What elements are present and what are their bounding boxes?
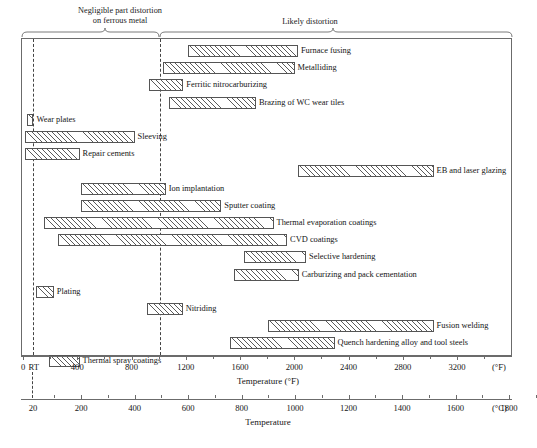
- axis-f-tick-minor: [104, 356, 105, 359]
- axis-f-tick-minor: [159, 356, 160, 359]
- axis-f-ticklabel: 800: [125, 362, 138, 372]
- axis-f-tick-major: [77, 356, 78, 360]
- bar-fusion-welding[interactable]: [268, 320, 433, 332]
- axis-c-title: Temperature: [0, 417, 536, 427]
- axis-c-tick-major: [242, 395, 243, 399]
- axis-c-tick-minor: [375, 395, 376, 398]
- axis-c-tick-major: [349, 395, 350, 399]
- axis-f-tick-minor: [213, 356, 214, 359]
- axis-f-ticklabel: 1600: [231, 362, 248, 372]
- axis-c-ticklabel: 400: [128, 403, 141, 413]
- bar-row: Wear plates: [22, 114, 511, 127]
- axis-f-tick-major: [349, 356, 350, 360]
- bar-row: EB and laser glazing: [22, 165, 511, 178]
- bar-ion-implantation[interactable]: [81, 183, 166, 195]
- axis-f-rt-label: RT: [28, 362, 38, 372]
- axis-c-tick-major: [81, 395, 82, 399]
- bar-selective-hardening[interactable]: [244, 251, 306, 263]
- bar-label: EB and laser glazing: [437, 164, 507, 177]
- bar-row: Fusion welding: [22, 320, 511, 333]
- bar-row: Metalliding: [22, 62, 511, 75]
- axis-f-tick-minor: [50, 356, 51, 359]
- axis-c-ticklabel: 600: [182, 403, 195, 413]
- bar-row: Quench hardening alloy and tool steels: [22, 337, 511, 350]
- bar-nitriding[interactable]: [147, 303, 182, 315]
- axis-c-ticklabel: 200: [75, 403, 88, 413]
- bar-label: Fusion welding: [437, 319, 489, 332]
- axis-f-zero-label: 0: [21, 362, 25, 372]
- bar-sputter-coating[interactable]: [81, 200, 221, 212]
- axis-f-tick-minor: [376, 356, 377, 359]
- axis-f-tick-minor: [267, 356, 268, 359]
- axis-c-ticklabel: 1000: [286, 403, 303, 413]
- bar-label: Metalliding: [298, 61, 337, 74]
- bar-row: Ferritic nitrocarburizing: [22, 79, 511, 92]
- axis-c-tick-major: [456, 395, 457, 399]
- bar-carburizing-and-pack-cementation[interactable]: [234, 269, 299, 281]
- bar-furnace-fusing[interactable]: [188, 45, 298, 57]
- axis-c-tick-minor: [161, 395, 162, 398]
- axis-c-ticklabel: 20: [29, 403, 38, 413]
- bar-row: Sleeving: [22, 131, 511, 144]
- axis-celsius: [21, 399, 512, 400]
- bar-row: Nitriding: [22, 303, 511, 316]
- bar-label: Sleeving: [138, 130, 167, 143]
- axis-c-tick-major: [188, 395, 189, 399]
- bar-label: Nitriding: [186, 302, 217, 315]
- bar-row: Ion implantation: [22, 183, 511, 196]
- axis-c-tick-minor: [268, 395, 269, 398]
- axis-c-tick-minor: [429, 395, 430, 398]
- bar-eb-and-laser-glazing[interactable]: [298, 165, 434, 177]
- bar-label: Thermal evaporation coatings: [277, 216, 377, 229]
- axis-f-tick-minor: [321, 356, 322, 359]
- bar-label: Plating: [57, 285, 81, 298]
- bar-cvd-coatings[interactable]: [58, 234, 287, 246]
- axis-c-tick-minor: [322, 395, 323, 398]
- bar-plating[interactable]: [36, 286, 54, 298]
- bar-label: Quench hardening alloy and tool steels: [338, 336, 468, 349]
- bar-label: Brazing of WC wear tiles: [259, 96, 344, 109]
- axis-f-tick-major: [294, 356, 295, 360]
- axis-f-ticklabel: 2400: [340, 362, 357, 372]
- axis-f-title: Temperature (°F): [0, 376, 536, 386]
- axis-f-tick-major: [457, 356, 458, 360]
- axis-f-tick-minor: [484, 356, 485, 359]
- axis-f-ticklabel: 1200: [177, 362, 194, 372]
- bar-repair-cements[interactable]: [25, 148, 79, 160]
- axis-c-tick-minor: [54, 395, 55, 398]
- axis-f-tick-major: [186, 356, 187, 360]
- axis-f-tick-major: [23, 356, 24, 360]
- bar-row: Selective hardening: [22, 251, 511, 264]
- bar-label: Selective hardening: [309, 250, 375, 263]
- bar-row: Thermal evaporation coatings: [22, 217, 511, 230]
- plot-area: Furnace fusingMetallidingFerritic nitroc…: [21, 38, 512, 356]
- bar-row: Furnace fusing: [22, 45, 511, 58]
- bar-brazing-of-wc-wear-tiles[interactable]: [169, 97, 256, 109]
- bar-label: Ferritic nitrocarburizing: [186, 78, 267, 91]
- brace-left: [22, 28, 159, 37]
- bar-row: CVD coatings: [22, 234, 511, 247]
- axis-f-unit: (°F): [492, 362, 506, 372]
- axis-f-tick-major: [132, 356, 133, 360]
- brace-right: [160, 28, 512, 37]
- axis-c-ticklabel: 1400: [393, 403, 410, 413]
- axis-c-tick-minor: [482, 395, 483, 398]
- axis-c-tick-major: [135, 395, 136, 399]
- bar-label: Wear plates: [36, 113, 75, 126]
- axis-c-tick-minor: [108, 395, 109, 398]
- axis-c-tick-major: [295, 395, 296, 399]
- bar-label: CVD coatings: [290, 233, 338, 246]
- axis-c-ticklabel: 1200: [340, 403, 357, 413]
- bar-label: Sputter coating: [224, 199, 275, 212]
- bar-metalliding[interactable]: [163, 62, 295, 74]
- bar-row: Sputter coating: [22, 200, 511, 213]
- bar-ferritic-nitrocarburizing[interactable]: [149, 79, 184, 91]
- bar-quench-hardening-alloy-and-tool-steels[interactable]: [230, 337, 334, 349]
- bar-thermal-evaporation-coatings[interactable]: [44, 217, 273, 229]
- axis-c-unit: (°C): [492, 403, 507, 413]
- axis-c-tick-minor: [215, 395, 216, 398]
- axis-f-tick-major: [240, 356, 241, 360]
- bar-wear-plates[interactable]: [27, 114, 33, 126]
- bar-sleeving[interactable]: [25, 131, 134, 143]
